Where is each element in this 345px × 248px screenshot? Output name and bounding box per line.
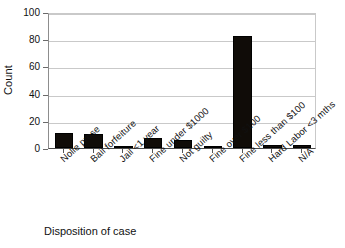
y-axis-tick-label: 20: [10, 117, 40, 127]
y-axis-title: Count: [2, 50, 14, 110]
y-axis-tick-label: 40: [10, 90, 40, 100]
gridline: [49, 41, 315, 42]
y-axis-tick-label: 60: [10, 62, 40, 72]
x-axis-title: Disposition of case: [44, 225, 136, 237]
gridline: [49, 14, 315, 15]
gridline: [49, 68, 315, 69]
bar-chart: Count 020406080100 Nolle proseBail forfe…: [0, 0, 345, 248]
gridline: [49, 96, 315, 97]
y-axis-tick-label: 0: [10, 144, 40, 154]
y-axis-tick-label: 100: [10, 8, 40, 18]
y-axis-tick: [43, 149, 48, 150]
y-axis-tick-label: 80: [10, 35, 40, 45]
